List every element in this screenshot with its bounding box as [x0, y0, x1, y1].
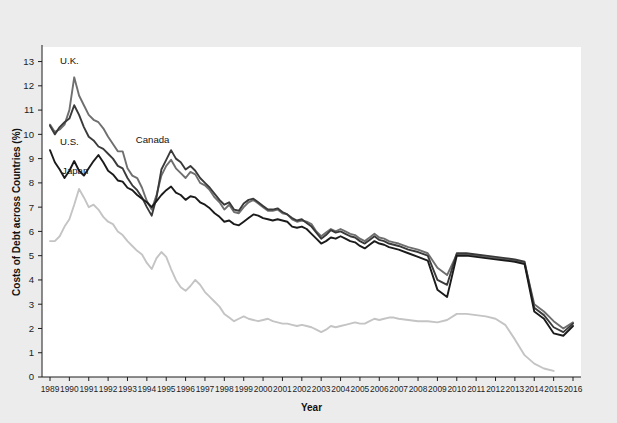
y-axis-title: Costs of Debt across Countries (%): [11, 128, 22, 296]
x-tick-label: 1998: [215, 384, 234, 394]
y-tick-label: 12: [23, 80, 34, 91]
x-tick-label: 1995: [157, 384, 176, 394]
x-tick-label: 2014: [525, 384, 544, 394]
x-tick-label: 1996: [176, 384, 195, 394]
x-tick-label: 2004: [331, 384, 350, 394]
x-tick-label: 1990: [60, 384, 79, 394]
chart-svg: 0123456789101112131989199019911992199319…: [0, 0, 617, 423]
y-tick-label: 3: [29, 299, 34, 310]
x-tick-label: 1989: [41, 384, 60, 394]
y-tick-label: 7: [29, 202, 34, 213]
y-tick-label: 10: [23, 129, 34, 140]
x-tick-label: 2013: [506, 384, 525, 394]
y-tick-label: 13: [23, 56, 34, 67]
series-label-uk: U.K.: [60, 55, 79, 66]
y-tick-label: 2: [29, 323, 34, 334]
x-tick-label: 1991: [79, 384, 98, 394]
x-tick-label: 2015: [544, 384, 563, 394]
x-axis-title: Year: [301, 402, 322, 413]
y-tick-label: 5: [29, 250, 34, 261]
x-tick-label: 2003: [312, 384, 331, 394]
x-tick-label: 2000: [254, 384, 273, 394]
y-tick-label: 6: [29, 226, 34, 237]
chart-figure: 0123456789101112131989199019911992199319…: [0, 0, 617, 423]
y-tick-label: 4: [29, 274, 35, 285]
y-tick-label: 1: [29, 347, 34, 358]
x-tick-label: 2011: [467, 384, 485, 394]
series-label-canada: Canada: [136, 134, 170, 145]
x-tick-label: 1993: [118, 384, 137, 394]
series-line-uk: [50, 77, 573, 328]
x-tick-label: 1997: [196, 384, 215, 394]
x-tick-label: 2008: [409, 384, 428, 394]
y-tick-label: 0: [29, 371, 34, 382]
x-tick-label: 2005: [351, 384, 370, 394]
series-label-japan: Japan: [62, 165, 88, 176]
x-tick-label: 2012: [486, 384, 505, 394]
x-tick-label: 2009: [428, 384, 447, 394]
y-tick-label: 11: [24, 104, 34, 115]
series-label-us: U.S.: [60, 136, 79, 147]
series-line-canada: [50, 105, 573, 332]
series-line-japan: [50, 189, 554, 371]
x-tick-label: 1999: [234, 384, 253, 394]
x-tick-label: 2016: [564, 384, 583, 394]
x-tick-label: 2010: [447, 384, 466, 394]
x-tick-label: 2001: [273, 384, 292, 394]
x-tick-label: 2007: [389, 384, 408, 394]
x-tick-label: 1992: [99, 384, 118, 394]
x-tick-label: 2002: [292, 384, 311, 394]
x-tick-label: 1994: [138, 384, 157, 394]
y-tick-label: 8: [29, 177, 34, 188]
x-tick-label: 2006: [370, 384, 389, 394]
y-tick-label: 9: [29, 153, 34, 164]
